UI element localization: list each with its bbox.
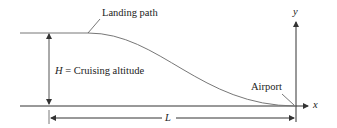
altitude-label: H = Cruising altitude (55, 66, 144, 77)
airport-leader (282, 94, 294, 105)
landing-path-leader (88, 19, 100, 33)
y-axis-label: y (293, 7, 298, 18)
airport-label: Airport (251, 82, 282, 93)
altitude-variable: H (55, 65, 63, 76)
landing-path-label: Landing path (102, 8, 158, 19)
distance-label: L (165, 113, 171, 124)
x-axis-label: x (313, 100, 318, 111)
altitude-text: = Cruising altitude (63, 65, 144, 76)
landing-path-diagram (0, 0, 337, 128)
